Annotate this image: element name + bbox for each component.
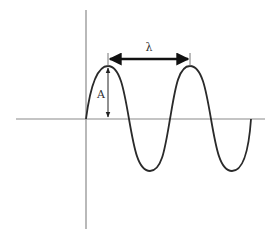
wavelength-label: λ [146, 41, 153, 54]
wave-diagram: λ A [0, 0, 275, 239]
amplitude-label: A [96, 88, 106, 101]
